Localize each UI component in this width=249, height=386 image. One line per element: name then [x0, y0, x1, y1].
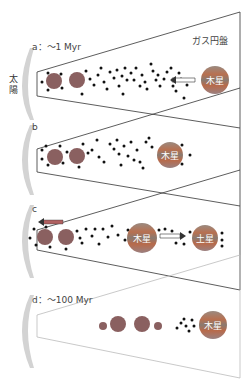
jupiter-label-c: 木星	[133, 233, 151, 244]
panel-d-label: d：～100 Myr	[32, 293, 93, 306]
jupiter-label-b: 木星	[161, 150, 179, 161]
panel-c	[29, 218, 224, 253]
panel-a-label: a：～1 Myr	[32, 40, 81, 53]
sun-label: 太陽	[8, 74, 18, 96]
saturn-label-c: 土星	[196, 233, 214, 244]
jupiter-label-a: 木星	[206, 75, 224, 86]
jupiter-label-d: 木星	[204, 320, 222, 331]
grand-tack-diagram: 木星 木星 木星 土星 木星	[0, 0, 249, 386]
gas-disk-label: ガス円盤	[192, 34, 228, 47]
panel-a	[41, 63, 230, 100]
panel-c-label: c	[32, 204, 37, 214]
panel-b-label: b	[32, 122, 38, 132]
